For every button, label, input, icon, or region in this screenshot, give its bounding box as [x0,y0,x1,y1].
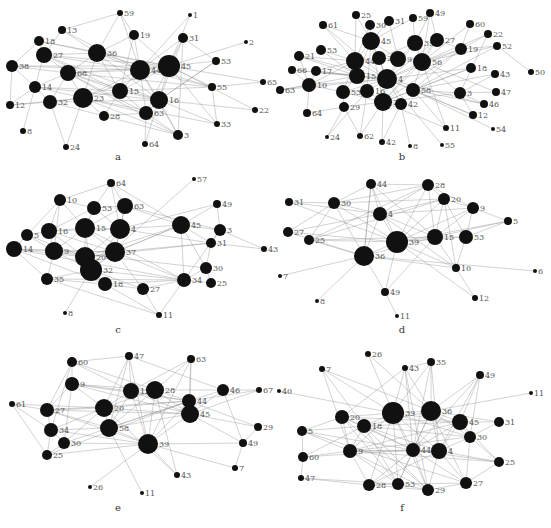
node-60 [67,357,77,367]
node-label: 22 [493,30,503,39]
node-39 [407,35,423,51]
node-label: 57 [197,175,207,184]
node-label: 53 [102,204,112,213]
node-20 [438,193,450,205]
node-23 [374,93,392,111]
node-54 [491,127,495,131]
node-16 [150,91,168,109]
network-graph: 6457105363491615445533114920374332303518… [0,170,275,345]
node-30 [200,262,212,274]
node-label: 45 [469,418,479,427]
node-label: 16 [58,227,68,236]
node-label: 31 [505,418,515,427]
node-label: 11 [145,489,155,498]
node-label: 39 [405,409,415,418]
node-26 [88,485,92,489]
node-10 [54,194,66,206]
node-61 [9,401,15,407]
node-47 [492,88,500,96]
node-25 [494,457,504,467]
node-label: 9 [407,55,412,64]
node-22 [484,30,492,38]
node-28 [363,479,375,491]
node-label: 7 [283,272,288,281]
node-45 [172,216,190,234]
node-label: 35 [436,358,446,367]
node-label: 55 [217,83,227,92]
node-55 [208,83,216,91]
node-4 [431,443,447,459]
node-45 [452,414,468,430]
network-graph: 2549315930616022453927525319214420956184… [275,0,551,170]
node-label: 5 [34,231,39,240]
node-30 [464,431,476,443]
node-8 [315,299,319,303]
edge [50,102,66,147]
network-graph: 4763609152846676127204445345829303949257… [0,345,275,528]
node-label: 3 [467,89,472,98]
edge [223,390,243,443]
node-label: 40 [282,387,292,396]
node-label: 29 [263,423,273,432]
node-label: 39 [159,440,169,449]
node-4 [110,219,130,239]
node-label: 46 [489,100,499,109]
node-16 [360,84,374,98]
node-label: 10 [317,81,327,90]
node-label: 28 [110,112,120,121]
edge [369,451,439,485]
node-label: 14 [42,83,52,92]
node-33 [214,121,220,127]
network-panel-b: 2549315930616022453927525319214420956184… [275,0,551,170]
node-label: 16 [169,96,179,105]
node-label: 47 [501,88,511,97]
node-59 [409,14,417,22]
node-29 [422,484,434,496]
node-label: 30 [341,199,351,208]
nodes: 4763609152846676127204445345829303949257… [9,352,273,498]
node-44 [346,52,364,70]
node-label: 26 [372,350,382,359]
node-10 [452,264,460,272]
node-32 [43,95,57,109]
node-label: 8 [320,297,325,306]
node-label: 11 [163,311,173,320]
node-label: 64 [116,179,126,188]
node-18 [466,63,476,73]
node-3 [173,130,183,140]
node-22 [252,107,258,113]
node-47 [298,475,304,481]
node-label: 33 [221,120,231,129]
node-label: 49 [485,371,495,380]
node-label: 32 [58,98,68,107]
node-label: 18 [477,64,487,73]
node-53 [459,230,473,244]
network-graph: 2635743494011393620453118530944460254728… [275,345,551,528]
node-label: 42 [386,138,396,147]
node-6 [533,269,537,273]
node-53 [392,478,404,490]
node-24 [63,144,69,150]
node-label: 13 [67,26,77,35]
edge [280,256,364,276]
node-label: 56 [432,58,442,67]
node-label: 44 [421,446,431,455]
edge [334,184,371,203]
node-66 [288,66,296,74]
node-15 [427,229,443,245]
node-label: 44 [197,397,207,406]
node-label: 39 [409,238,419,247]
node-label: 25 [361,11,371,20]
node-14 [6,241,22,257]
node-label: 31 [294,198,304,207]
node-label: 10 [461,264,471,273]
node-label: 30 [477,433,487,442]
node-label: 20 [114,404,124,413]
node-label: 18 [372,422,382,431]
edge [334,203,397,242]
node-58 [100,419,118,437]
node-31 [494,417,504,427]
nodes: 2549315930616022453927525319214420956184… [276,9,545,151]
node-label: 31 [395,17,405,26]
node-label: 44 [377,180,387,189]
